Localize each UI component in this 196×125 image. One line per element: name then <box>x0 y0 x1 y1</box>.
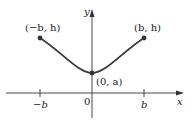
point-right <box>142 36 147 41</box>
diagram-canvas <box>0 0 196 125</box>
point-vertex <box>90 71 95 76</box>
x-axis-label: x <box>177 97 183 107</box>
catenary-diagram: y x 0 −b b (−b, h) (b, h) (0, a) <box>0 0 196 125</box>
point-left <box>38 36 43 41</box>
point-left-label: (−b, h) <box>25 23 60 33</box>
y-axis-label: y <box>84 7 90 17</box>
point-right-label: (b, h) <box>134 23 161 33</box>
x-axis <box>6 91 184 96</box>
tick-label-b: b <box>141 100 147 110</box>
origin-label: 0 <box>84 97 90 107</box>
vertex-label: (0, a) <box>96 77 122 87</box>
tick-label-neg-b: −b <box>33 100 48 110</box>
